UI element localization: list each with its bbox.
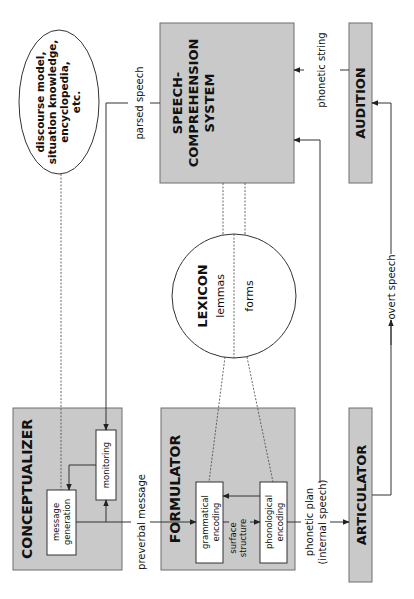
- forms-label: forms: [243, 280, 256, 312]
- grammatical-encoding-line-1: grammatical: [200, 495, 210, 549]
- monitoring-label: monitoring: [101, 442, 111, 488]
- knowledge-ellipse: discourse model, situation knowledge, en…: [19, 30, 99, 174]
- message-generation-line-2: generation: [62, 499, 72, 545]
- internal-speech-loop-edge: [294, 140, 320, 483]
- speech-comprehension-line-1: SPEECH-: [170, 72, 185, 134]
- knowledge-line-2: situation knowledge,: [46, 40, 58, 165]
- articulator-box: ARTICULATOR: [349, 408, 372, 582]
- phonological-encoding-line-2: encoding: [275, 502, 285, 541]
- surface-structure-line-1: surface: [228, 522, 238, 553]
- lemmas-label: lemmas: [214, 274, 227, 318]
- surface-structure-line-2: structure: [238, 519, 248, 558]
- lexicon-circle: LEXICON lemmas forms: [172, 234, 296, 358]
- conceptualizer-label: CONCEPTUALIZER: [19, 419, 35, 559]
- grammatical-encoding-line-2: encoding: [211, 502, 221, 541]
- formulator-label: FORMULATOR: [167, 435, 183, 544]
- knowledge-line-3: encyclopedia,: [58, 61, 70, 143]
- message-generation-line-1: message: [51, 503, 61, 541]
- audition-box: AUDITION: [349, 23, 372, 183]
- speech-comprehension-line-2: COMPREHENSION: [186, 39, 201, 168]
- phonetic-plan-line-2: (internal speech): [317, 479, 328, 564]
- speech-production-diagram: discourse model, situation knowledge, en…: [0, 0, 414, 599]
- phonological-encoding-line-1: phonological: [264, 495, 274, 549]
- speech-comprehension-line-3: SYSTEM: [202, 74, 217, 133]
- parsed-speech-label: parsed speech: [134, 66, 145, 139]
- formulator-box: FORMULATOR grammatical encoding surface …: [161, 408, 295, 570]
- parsed-speech-edge: parsed speech: [106, 66, 160, 430]
- audition-label: AUDITION: [353, 67, 368, 138]
- lexicon-label: LEXICON: [195, 264, 210, 328]
- phonetic-string-label: phonetic string: [316, 32, 327, 107]
- speech-comprehension-box: SPEECH- COMPREHENSION SYSTEM: [160, 23, 294, 183]
- preverbal-message-label: preverbal message: [136, 474, 147, 570]
- knowledge-line-4: etc.: [70, 91, 82, 113]
- overt-speech-label: overt speech: [386, 254, 397, 319]
- conceptualizer-box: CONCEPTUALIZER message generation monito…: [13, 408, 122, 570]
- knowledge-line-1: discourse model,: [34, 52, 46, 153]
- phonetic-plan-line-1: phonetic plan: [304, 488, 315, 556]
- articulator-label: ARTICULATOR: [354, 445, 369, 546]
